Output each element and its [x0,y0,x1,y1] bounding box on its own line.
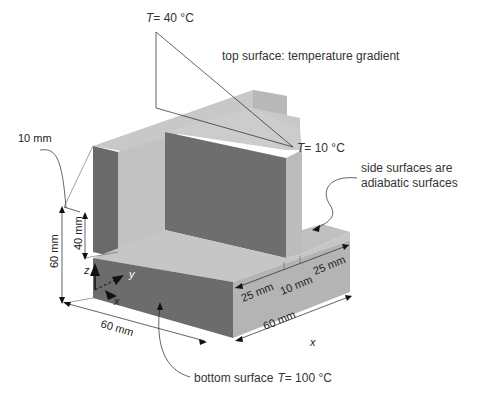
side-surfaces-leader [316,178,357,229]
svg-text:10 mm: 10 mm [18,132,52,144]
dimension-10mm-thickness: 10 mm [18,132,93,212]
svg-text:z: z [83,264,90,276]
back-wall-side-face [286,150,302,258]
svg-text:x: x [309,336,316,348]
svg-text:40 mm: 40 mm [72,216,84,250]
left-wall-front-face [93,146,118,258]
diagram-canvas: T= 40 °C T= 10 °C top surface: temperatu… [0,0,484,398]
l-block [93,90,350,338]
side-surfaces-label-line2: adiabatic surfaces [361,176,458,190]
dimension-60mm-height: 60 mm [48,206,65,304]
bottom-surface-label: bottom surfaceT= 100 °C [194,371,332,385]
top-surface-label: top surface: temperature gradient [222,49,400,63]
svg-text:60 mm: 60 mm [48,234,60,268]
svg-text:x: x [113,295,120,307]
top-temp-low-label: T= 10 °C [297,141,345,155]
top-temp-high-label: T= 40 °C [146,11,194,25]
side-surfaces-label-line1: side surfaces are [361,161,453,175]
